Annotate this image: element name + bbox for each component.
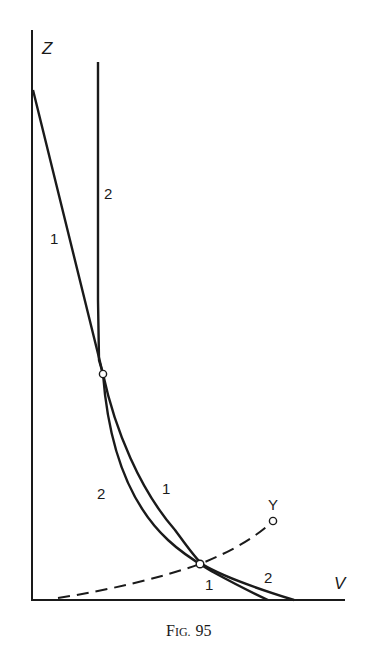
curve-2-label-top: 2 xyxy=(104,185,112,202)
dashed-curve-label-y: Y xyxy=(268,496,278,513)
curve-2-label-mid: 2 xyxy=(97,485,105,502)
curve-1-label-bottom: 1 xyxy=(205,576,213,593)
point-y-marker xyxy=(269,517,276,524)
caption-number: 95 xyxy=(196,622,212,639)
caption-prefix-large: F xyxy=(166,622,175,639)
curve-2-label-bottom: 2 xyxy=(264,569,272,586)
curve-2 xyxy=(98,62,268,600)
figure-caption: FIG.95 xyxy=(166,622,212,639)
curve-1 xyxy=(33,90,294,600)
figure-95-diagram: Z V 2 1 2 1 1 2 Y FIG.95 xyxy=(0,0,380,656)
v-axis-label: V xyxy=(334,574,347,593)
intersection-point-upper xyxy=(99,370,106,377)
curve-1-label-mid: 1 xyxy=(162,480,170,497)
caption-prefix-small: IG. xyxy=(175,625,191,639)
intersection-point-lower xyxy=(196,560,204,568)
curve-1-label-top: 1 xyxy=(50,230,58,247)
z-axis-label: Z xyxy=(41,39,53,58)
